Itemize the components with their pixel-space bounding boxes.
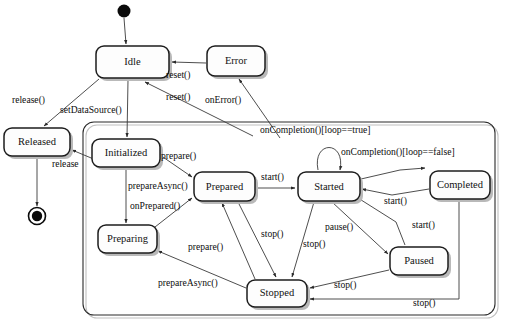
edge-region-to-idle-reset: [145, 82, 253, 136]
edge-label-start-prepared: start(): [261, 171, 284, 183]
edge-label-start-paused: start(): [412, 219, 435, 231]
edge-label-stop-prepared: stop(): [261, 228, 283, 240]
edge-label-prepare-bottom: prepare(): [188, 241, 223, 253]
edge-initial-to-idle: [124, 18, 126, 44]
edge-prepared-to-stopped: [238, 202, 276, 277]
state-started[interactable]: Started: [298, 172, 363, 204]
state-diagram-canvas: Idle Error Released Initialized Prepared…: [0, 0, 508, 326]
edge-label-prepare-async-top: prepareAsync(): [128, 180, 188, 192]
edge-idle-to-initialized: [127, 80, 128, 137]
initial-state-node: [118, 5, 131, 18]
edge-label-start-completed: start(): [384, 195, 407, 207]
state-label-started: Started: [314, 181, 344, 192]
state-idle[interactable]: Idle: [96, 46, 172, 81]
state-stopped[interactable]: Stopped: [247, 280, 310, 310]
edge-label-pause: pause(): [325, 221, 353, 233]
state-label-idle: Idle: [124, 56, 141, 67]
edge-idle-to-released: [44, 79, 99, 126]
edge-label-stop-completed: stop(): [413, 297, 435, 309]
edge-stopped-to-prepared: [222, 203, 255, 279]
edge-label-reset-top: reset(): [166, 69, 191, 81]
state-label-error: Error: [225, 55, 248, 66]
state-label-released: Released: [18, 136, 57, 147]
state-label-completed: Completed: [437, 179, 484, 190]
edge-label-on-completion-false: onCompletion()[loop==false]: [341, 146, 455, 158]
state-label-stopped: Stopped: [260, 287, 295, 298]
state-completed[interactable]: Completed: [430, 171, 493, 202]
edge-label-stop-started: stop(): [303, 238, 325, 250]
state-label-preparing: Preparing: [107, 233, 149, 244]
edge-label-release-plain: release: [52, 158, 79, 169]
state-label-initialized: Initialized: [105, 147, 148, 158]
edge-started-to-completed: [361, 168, 425, 179]
edge-label-release-paren: release(): [12, 94, 45, 106]
edge-label-prepare-top: prepare(): [161, 150, 196, 162]
state-paused[interactable]: Paused: [390, 247, 451, 278]
edge-label-on-prepared: onPrepared(): [130, 200, 180, 212]
state-label-paused: Paused: [404, 255, 434, 266]
edge-started-self-loop: [317, 148, 340, 171]
edge-label-stop-paused: stop(): [334, 279, 356, 291]
edge-label-prepare-async-bottom: prepareAsync(): [158, 277, 218, 289]
state-preparing[interactable]: Preparing: [98, 225, 160, 256]
state-diagram-svg: Idle Error Released Initialized Prepared…: [0, 0, 508, 326]
state-prepared[interactable]: Prepared: [194, 172, 258, 204]
final-state-node: [29, 208, 46, 225]
edge-error-to-idle: [172, 62, 206, 63]
edge-label-on-error: onError(): [205, 94, 241, 106]
state-label-prepared: Prepared: [206, 181, 244, 192]
state-initialized[interactable]: Initialized: [92, 139, 163, 170]
state-error[interactable]: Error: [207, 46, 268, 79]
state-released[interactable]: Released: [4, 128, 73, 159]
edge-label-set-data-source: setDataSource(): [60, 104, 122, 116]
edge-completed-to-started: [362, 189, 429, 195]
edge-label-on-completion-true: onCompletion()[loop==true]: [260, 124, 370, 136]
edge-label-reset-mid: reset(): [166, 91, 191, 103]
